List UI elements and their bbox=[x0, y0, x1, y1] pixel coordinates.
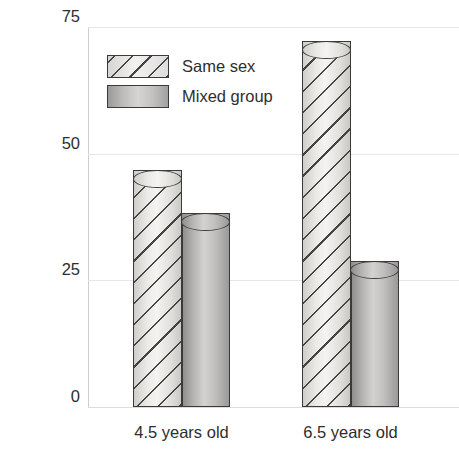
bar-mixed-group-6-5-years bbox=[351, 270, 400, 407]
bar-cap-ellipse bbox=[302, 41, 351, 59]
bar-chart: Percentage of social playtime 75 50 25 0 bbox=[0, 0, 459, 454]
legend-swatch-same-sex-icon bbox=[107, 55, 169, 78]
bar-mixed-group-4-5-years bbox=[182, 222, 231, 407]
y-tick-label-50: 50 bbox=[10, 135, 80, 152]
gridline-0 bbox=[88, 407, 459, 408]
gridline-50 bbox=[88, 154, 459, 155]
legend-item-mixed-group: Mixed group bbox=[107, 85, 273, 108]
legend-label-same-sex: Same sex bbox=[182, 58, 255, 75]
x-tick-label-4-5-years: 4.5 years old bbox=[92, 424, 272, 441]
y-tick-label-25: 25 bbox=[10, 261, 80, 278]
bar-same-sex-6-5-years bbox=[302, 50, 351, 407]
y-tick-label-0: 0 bbox=[10, 388, 80, 405]
legend: Same sex Mixed group bbox=[107, 55, 273, 108]
y-tick-label-75: 75 bbox=[10, 8, 80, 25]
bar-cap-ellipse bbox=[133, 170, 182, 188]
x-tick-label-6-5-years: 6.5 years old bbox=[261, 424, 441, 441]
gridline-75 bbox=[88, 27, 459, 28]
bar-cap-ellipse bbox=[350, 261, 399, 279]
bar-same-sex-4-5-years bbox=[133, 179, 182, 407]
legend-item-same-sex: Same sex bbox=[107, 55, 273, 78]
legend-label-mixed-group: Mixed group bbox=[182, 88, 273, 105]
bar-cap-ellipse bbox=[181, 213, 230, 231]
legend-swatch-mixed-group-icon bbox=[107, 85, 169, 108]
